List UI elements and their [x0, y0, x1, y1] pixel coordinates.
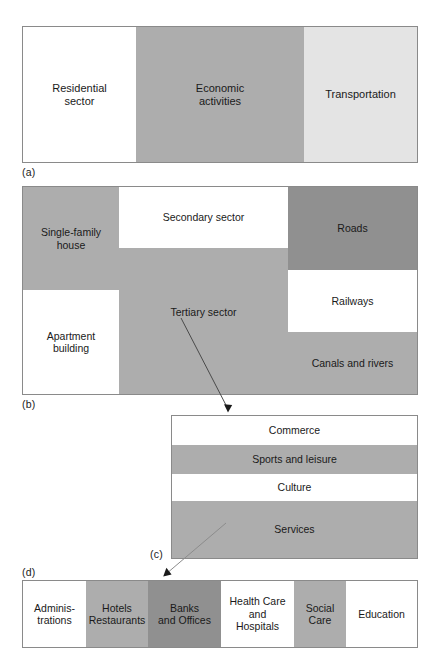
cell-label-line2: house: [39, 239, 103, 251]
panel-c-label: (c): [150, 548, 163, 560]
cell-residential-sector: Residential sector: [23, 27, 136, 162]
cell-label: Commerce: [267, 424, 322, 436]
cell-label-line2: trations: [32, 614, 77, 626]
cell-tertiary-sector: Tertiary sector: [119, 248, 288, 394]
cell-label-line2: building: [45, 342, 97, 354]
cell-label-line1: Hotels: [87, 602, 148, 614]
arrow-head-services: [163, 568, 171, 577]
cell-health-care-and-hospitals: Health Care and Hospitals: [221, 581, 294, 647]
cell-culture: Culture: [172, 474, 417, 501]
cell-railways: Railways: [288, 270, 417, 332]
arrow-head-tertiary: [224, 404, 232, 412]
cell-label: Sports and leisure: [250, 453, 339, 465]
cell-label-line2: sector: [50, 95, 108, 108]
cell-social-care: Social Care: [294, 581, 346, 647]
cell-services: Services: [172, 501, 417, 558]
cell-label-line2: activities: [194, 95, 246, 108]
cell-label-line3: Hospitals: [227, 620, 287, 632]
cell-label: Services: [272, 523, 316, 535]
panel-d: Adminis- trations Hotels Restaurants Ban…: [22, 580, 418, 648]
cell-label-line1: Apartment: [45, 330, 97, 342]
cell-canals-and-rivers: Canals and rivers: [288, 332, 417, 394]
cell-hotels-restaurants: Hotels Restaurants: [86, 581, 148, 647]
panel-b-label: (b): [22, 398, 35, 410]
cell-economic-activities: Economic activities: [136, 27, 304, 162]
cell-label: Railways: [329, 295, 375, 307]
cell-label-line1: Health Care: [227, 595, 287, 607]
cell-commerce: Commerce: [172, 416, 417, 445]
panel-c: Commerce Sports and leisure Culture Serv…: [171, 415, 418, 559]
cell-label: Education: [356, 608, 407, 620]
panel-d-label: (d): [22, 566, 35, 578]
cell-label-line1: Social: [304, 602, 337, 614]
cell-label: Culture: [276, 481, 314, 493]
cell-label: Secondary sector: [161, 211, 247, 223]
cell-label: Canals and rivers: [310, 357, 396, 369]
cell-administrations: Adminis- trations: [23, 581, 86, 647]
panel-a-label: (a): [22, 166, 35, 178]
cell-label-line1: Adminis-: [32, 602, 77, 614]
cell-label: Transportation: [323, 88, 398, 101]
cell-label-line1: Economic: [194, 82, 246, 95]
cell-label-line2: Care: [304, 614, 337, 626]
panel-a: Residential sector Economic activities T…: [22, 26, 418, 163]
cell-banks-and-offices: Banks and Offices: [148, 581, 221, 647]
cell-label-line2: and Offices: [156, 614, 213, 626]
cell-label-line1: Banks: [156, 602, 213, 614]
cell-transportation: Transportation: [304, 27, 417, 162]
cell-label-line1: Residential: [50, 82, 108, 95]
cell-label-line2: Restaurants: [87, 614, 148, 626]
cell-roads: Roads: [288, 187, 417, 270]
cell-single-family-house: Single-family house: [23, 187, 119, 290]
cell-label: Roads: [335, 222, 369, 234]
cell-sports-and-leisure: Sports and leisure: [172, 445, 417, 474]
cell-secondary-sector: Secondary sector: [119, 187, 288, 248]
panel-b: Single-family house Apartment building S…: [22, 186, 418, 395]
cell-apartment-building: Apartment building: [23, 290, 119, 394]
cell-label: Tertiary sector: [169, 306, 239, 318]
cell-label-line2: and: [227, 608, 287, 620]
cell-label-line1: Single-family: [39, 226, 103, 238]
cell-education: Education: [346, 581, 417, 647]
